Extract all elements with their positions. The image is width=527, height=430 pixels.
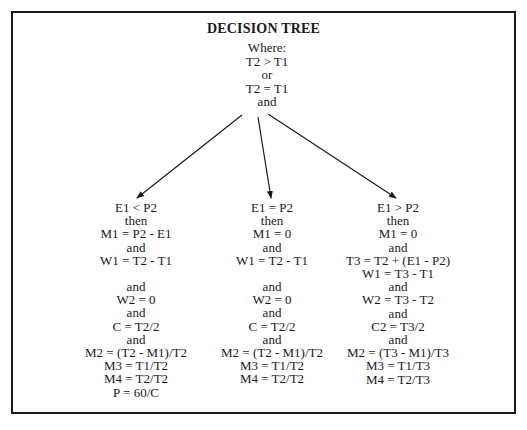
branch-middle: E1 = P2 then M1 = 0 and W1 = T2 - T1 and…: [202, 201, 342, 386]
branch-line: M4 = T2/T2: [202, 372, 342, 385]
arrow-right: [268, 114, 396, 198]
branch-line: and: [66, 306, 206, 319]
branch-left: E1 < P2 then M1 = P2 - E1 and W1 = T2 - …: [66, 201, 206, 399]
arrow-left: [137, 115, 242, 198]
branch-line: C = T2/2: [202, 320, 342, 333]
arrow-middle: [258, 117, 271, 198]
branch-line: M4 = T2/T3: [328, 373, 468, 386]
branch-line: M1 = P2 - E1: [66, 227, 206, 240]
branch-line: W2 = T3 - T2: [328, 293, 468, 306]
branch-line: and: [202, 241, 342, 254]
branch-line: M1 = 0: [202, 227, 342, 240]
branch-line: M4 = T2/T2: [66, 372, 206, 385]
branch-line: M3 = T1/T3: [328, 359, 468, 372]
branch-line: and: [328, 241, 468, 254]
branch-line: W1 = T2 - T1: [66, 254, 206, 267]
branch-line: P = 60/C: [66, 386, 206, 399]
branch-line: and: [66, 241, 206, 254]
branch-line: and: [328, 307, 468, 320]
branch-line: C = T2/2: [66, 320, 206, 333]
branch-line: and: [202, 306, 342, 319]
branch-right: E1 > P2 then M1 = 0 and T3 = T2 + (E1 - …: [328, 201, 468, 386]
branch-line: W1 = T2 - T1: [202, 254, 342, 267]
branch-line: M1 = 0: [328, 227, 468, 240]
